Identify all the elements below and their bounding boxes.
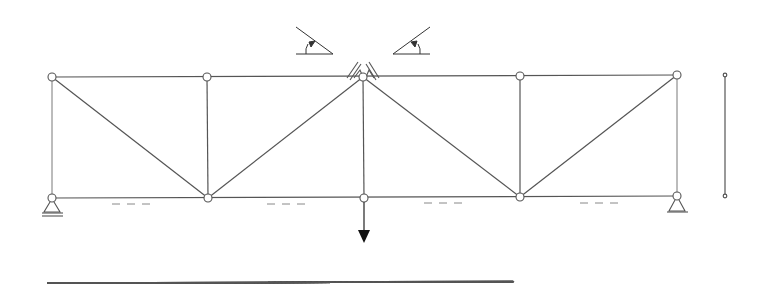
height-dimension: [723, 73, 727, 198]
node-t4: [516, 72, 524, 80]
diagonal-member-1: [52, 77, 208, 198]
load-arrow: [358, 202, 370, 243]
node-t2: [203, 73, 211, 81]
node-b2: [204, 194, 212, 202]
angle-indicator-right: [393, 27, 430, 54]
truss-members: [52, 75, 677, 198]
vertical-member-2: [207, 77, 208, 198]
node-b1: [48, 194, 56, 202]
node-t5: [673, 71, 681, 79]
diagonal-member-2: [208, 77, 363, 198]
node-t3: [359, 73, 367, 81]
angle-indicators: [296, 27, 430, 54]
node-b5: [673, 192, 681, 200]
truss-diagram: [0, 0, 764, 305]
support-le: [42, 202, 63, 216]
support-lb: [667, 200, 688, 212]
node-b3: [360, 194, 368, 202]
dash-marks: [112, 203, 618, 204]
diagonal-member-3: [363, 77, 520, 197]
vertical-member-3: [363, 77, 364, 198]
diagonal-member-4: [520, 75, 677, 197]
angle-indicator-left: [296, 27, 333, 54]
truss-nodes: [48, 71, 681, 202]
node-b4: [516, 193, 524, 201]
node-t1: [48, 73, 56, 81]
